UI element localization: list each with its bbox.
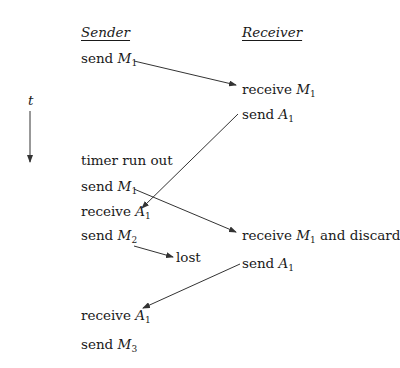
sender-event: timer run out <box>81 154 173 168</box>
receiver-event: send A1 <box>242 108 294 124</box>
sender-event: send M1 <box>81 180 137 196</box>
receiver-event: send A1 <box>242 257 294 273</box>
arrow-m1 <box>134 61 236 85</box>
sender-header: Sender <box>81 26 130 40</box>
sender-event: receive A1 <box>81 205 151 221</box>
time-label: t <box>28 94 33 108</box>
arrow-a1-second <box>143 264 240 308</box>
sender-event: send M1 <box>81 52 137 68</box>
arrow-m2-lost <box>134 246 173 257</box>
receiver-header: Receiver <box>242 26 302 40</box>
receiver-event: receive M1 <box>242 83 316 99</box>
lost-label: lost <box>176 251 201 265</box>
sender-event: send M3 <box>81 338 137 354</box>
sender-event: send M2 <box>81 229 137 245</box>
sender-event: receive A1 <box>81 309 151 325</box>
receiver-event: receive M1 and discard <box>242 229 400 245</box>
